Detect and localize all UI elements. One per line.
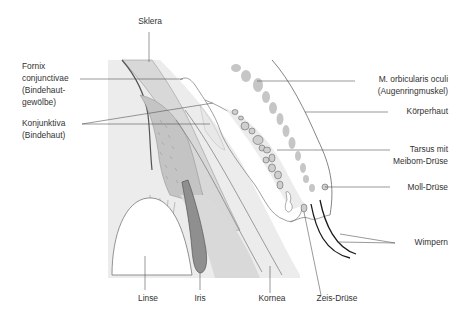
label-fornix-line3: (Bindehaut- [22, 85, 65, 96]
label-orbicularis-line1: M. orbicularis oculi [340, 74, 448, 85]
label-fornix-line4: gewölbe) [22, 97, 56, 108]
label-linse: Linse [130, 293, 166, 304]
label-kornea: Kornea [252, 293, 292, 304]
label-tarsus-line2: Meibom-Drüse [370, 156, 448, 167]
label-wimpern: Wimpern [390, 237, 448, 248]
label-fornix-line1: Fornix [22, 61, 45, 72]
label-koerperhaut: Körperhaut [380, 106, 448, 117]
label-zeis-druese: Zeis-Drüse [312, 293, 362, 304]
label-moll-druese: Moll-Drüse [380, 182, 448, 193]
eyelid-anatomy-diagram: Sklera Fornix conjunctivae (Bindehaut- g… [0, 0, 466, 326]
label-iris: Iris [188, 293, 212, 304]
lid-margin [285, 215, 330, 221]
label-tarsus-line1: Tarsus mit [380, 144, 448, 155]
label-konjunktiva-line1: Konjunktiva [22, 118, 65, 129]
label-sklera: Sklera [128, 16, 172, 27]
label-konjunktiva-line2: (Bindehaut) [22, 130, 65, 141]
label-orbicularis-line2: (Augenringmuskel) [340, 86, 448, 97]
eyelash-2 [320, 200, 356, 254]
label-fornix-line2: conjunctivae [22, 73, 69, 84]
